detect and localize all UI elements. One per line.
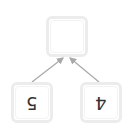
edge-right-to-root	[70, 58, 99, 82]
left-node-label: 5	[26, 94, 37, 112]
left-node: 5	[11, 82, 53, 123]
edge-left-to-root	[32, 58, 63, 82]
root-node-inner	[50, 20, 84, 53]
root-node	[46, 16, 88, 57]
right-node: 4	[80, 82, 122, 123]
right-node-label: 4	[95, 94, 106, 112]
